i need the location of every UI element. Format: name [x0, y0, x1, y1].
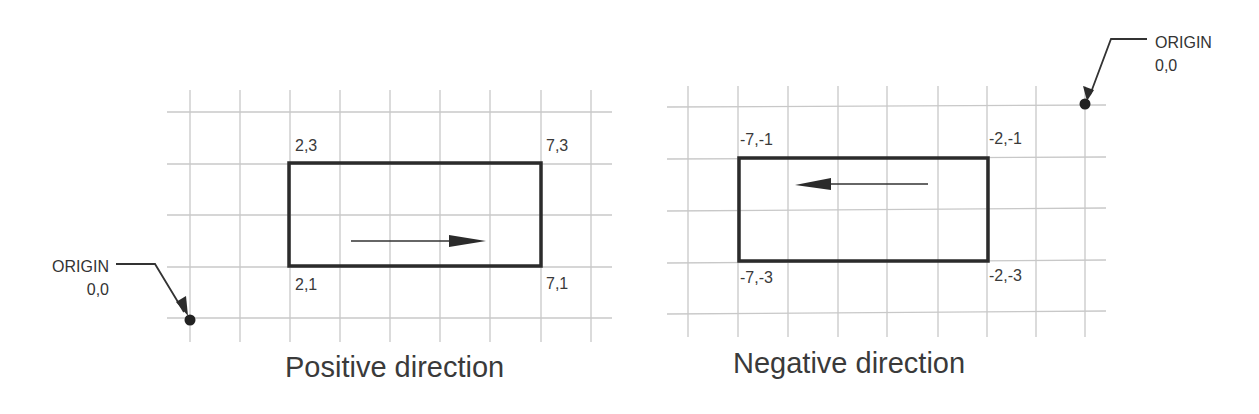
corner-label-top-right: 7,3 [546, 138, 568, 154]
corner-label-top-left: -7,-1 [740, 132, 773, 148]
positive-arrow-icon [351, 235, 486, 247]
negative-origin-label: ORIGIN 0,0 [1155, 31, 1212, 77]
corner-label-bottom-right: 7,1 [546, 276, 568, 292]
positive-origin-dot [185, 315, 196, 326]
origin-title: ORIGIN [35, 255, 109, 278]
negative-caption: Negative direction [733, 349, 965, 378]
negative-grid [667, 86, 1106, 337]
positive-caption: Positive direction [285, 353, 504, 382]
origin-coords: 0,0 [1155, 54, 1212, 77]
corner-label-bottom-left: -7,-3 [740, 270, 773, 286]
origin-coords: 0,0 [35, 278, 109, 301]
positive-grid [167, 90, 612, 342]
coordinate-diagram-canvas [0, 0, 1259, 414]
corner-label-bottom-left: 2,1 [295, 277, 317, 293]
corner-label-top-left: 2,3 [295, 138, 317, 154]
origin-title: ORIGIN [1155, 31, 1212, 54]
negative-arrow-icon [795, 178, 928, 190]
positive-origin-leader [116, 264, 196, 326]
positive-origin-label: ORIGIN 0,0 [35, 255, 109, 301]
negative-origin-dot [1080, 99, 1091, 110]
negative-origin-leader [1080, 39, 1148, 110]
corner-label-top-right: -2,-1 [989, 131, 1022, 147]
corner-label-bottom-right: -2,-3 [989, 268, 1022, 284]
